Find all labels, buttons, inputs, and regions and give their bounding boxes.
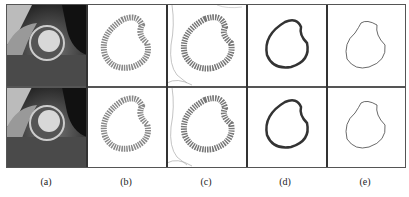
thin-contour-icon — [327, 87, 405, 167]
ring-with-edges-icon — [167, 87, 247, 167]
panel-e-row1 — [327, 5, 405, 86]
panel-b-row2 — [87, 87, 167, 167]
label-b: (b) — [106, 176, 146, 187]
speckle-ring-icon — [87, 87, 167, 167]
mri-image-icon — [7, 87, 87, 167]
label-d: (d) — [265, 176, 305, 187]
row-divider — [7, 86, 405, 88]
column-divider — [246, 5, 248, 167]
label-e: (e) — [345, 176, 385, 187]
panel-b-row1 — [87, 5, 167, 86]
panel-a-row2 — [7, 87, 87, 167]
label-a: (a) — [26, 176, 66, 187]
label-c: (c) — [186, 176, 226, 187]
thick-contour-icon — [247, 87, 327, 167]
column-divider — [86, 5, 88, 167]
speckle-ring-icon — [87, 5, 167, 86]
thick-contour-icon — [247, 5, 327, 86]
panel-e-row2 — [327, 87, 405, 167]
thin-contour-icon — [327, 5, 405, 86]
panel-c-row1 — [167, 5, 247, 86]
ring-with-edges-icon — [167, 5, 247, 86]
panel-a-row1 — [7, 5, 87, 86]
column-divider — [166, 5, 168, 167]
mri-image-icon — [7, 5, 87, 86]
panel-d-row2 — [247, 87, 327, 167]
panel-d-row1 — [247, 5, 327, 86]
column-divider — [326, 5, 328, 167]
panel-c-row2 — [167, 87, 247, 167]
figure-grid — [6, 4, 406, 168]
